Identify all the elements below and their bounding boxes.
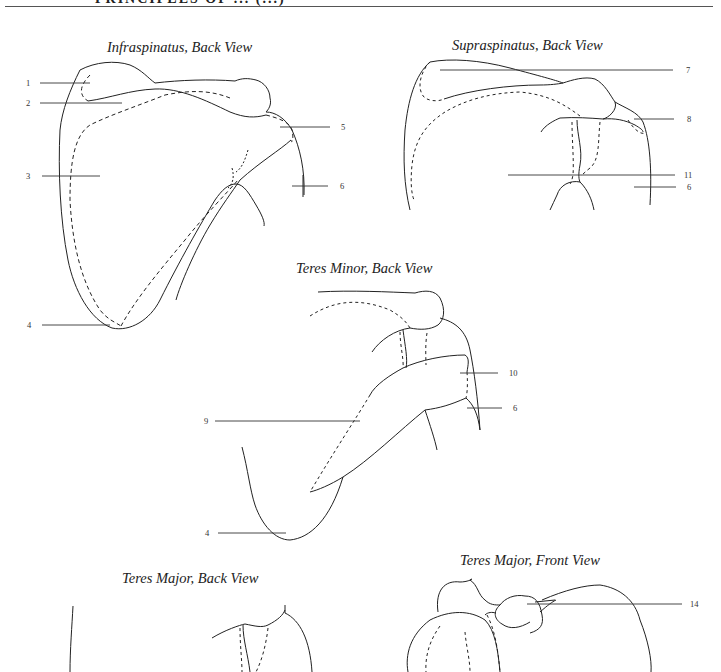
label-1: 1 — [26, 78, 30, 88]
label-7: 7 — [686, 65, 690, 75]
label-10: 10 — [509, 368, 518, 378]
label-5: 5 — [341, 122, 345, 132]
label-9: 9 — [204, 416, 208, 426]
teres-minor-diagram — [215, 291, 502, 540]
infraspinatus-diagram — [40, 62, 330, 328]
label-6: 6 — [340, 181, 344, 191]
teres-major-front-diagram — [407, 579, 682, 672]
anatomy-drawings — [0, 0, 721, 672]
label-2: 2 — [26, 98, 30, 108]
label-6-teres-minor: 6 — [513, 403, 517, 413]
supraspinatus-diagram — [404, 60, 676, 210]
label-4-teres-minor: 4 — [205, 528, 209, 538]
teres-major-back-diagram — [70, 605, 312, 672]
label-4: 4 — [27, 320, 31, 330]
label-14: 14 — [690, 599, 699, 609]
label-11: 11 — [684, 170, 692, 180]
label-8: 8 — [687, 114, 691, 124]
label-6-supraspinatus: 6 — [687, 182, 691, 192]
label-3: 3 — [26, 171, 30, 181]
